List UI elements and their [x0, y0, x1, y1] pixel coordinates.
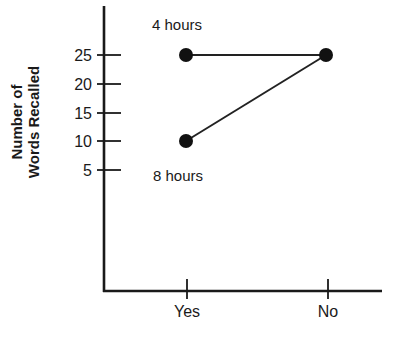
point-4-hours-yes	[179, 48, 193, 62]
y-tick-label-15: 15	[74, 105, 92, 122]
y-tick-label-25: 25	[74, 47, 92, 64]
y-tick-label-5: 5	[83, 162, 92, 179]
series-8-hours-line	[186, 55, 326, 141]
y-tick-label-20: 20	[74, 76, 92, 93]
series-label-4-hours: 4 hours	[152, 16, 202, 33]
line-chart: Number of Words Recalled 25 20 15 10 5	[0, 0, 398, 341]
y-ticks	[97, 55, 121, 170]
x-ticks	[187, 279, 328, 299]
y-tick-labels: 25 20 15 10 5	[74, 47, 92, 179]
y-axis-label-line1: Number of	[8, 83, 25, 159]
series-4-hours	[179, 48, 326, 62]
x-tick-labels: Yes No	[174, 303, 338, 320]
x-label-no: No	[318, 303, 339, 320]
y-tick-label-10: 10	[74, 133, 92, 150]
y-axis-label: Number of Words Recalled	[8, 66, 42, 178]
point-8-hours-yes	[179, 134, 193, 148]
x-label-yes: Yes	[174, 303, 200, 320]
axes	[103, 6, 382, 292]
series-label-8-hours: 8 hours	[153, 167, 203, 184]
series-8-hours	[179, 55, 326, 148]
point-no-shared	[319, 48, 333, 62]
y-axis-label-line2: Words Recalled	[25, 66, 42, 178]
